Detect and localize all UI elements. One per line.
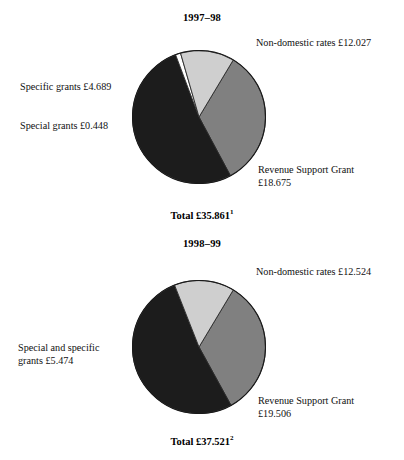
chart-2-total-text: Total £37.521 <box>170 436 230 447</box>
chart-1-label-specific-grants: Specific grants £4.689 <box>20 80 111 93</box>
pie-chart-1997-98: 1997–98 Non-domestic rates £12.027 Speci… <box>0 0 404 230</box>
chart-2-label-special-and-specific-grants: Special and specific grants £5.474 <box>18 341 99 367</box>
chart-1-total-footnote: 1 <box>230 208 234 216</box>
chart-1-label-revenue-support-grant: Revenue Support Grant £18.675 <box>258 163 354 189</box>
chart-1-label-special-grants: Special grants £0.448 <box>20 119 108 132</box>
pie-1-svg <box>132 50 266 184</box>
chart-1-total-text: Total £35.861 <box>170 210 230 221</box>
chart-2-total: Total £37.5212 <box>0 434 404 447</box>
chart-2-label-revenue-support-grant: Revenue Support Grant £19.506 <box>258 394 354 420</box>
chart-2-total-footnote: 2 <box>230 434 234 442</box>
pie-chart-1998-99: 1998–99 Non-domestic rates £12.524 Speci… <box>0 230 404 460</box>
chart-1-label-non-domestic-rates: Non-domestic rates £12.027 <box>256 36 371 49</box>
chart-2-title: 1998–99 <box>0 238 404 249</box>
pie-2-graphic <box>132 280 266 414</box>
chart-1-total: Total £35.8611 <box>0 208 404 221</box>
chart-1-title: 1997–98 <box>0 12 404 23</box>
pie-2-svg <box>132 280 266 414</box>
pie-1-graphic <box>132 50 266 184</box>
chart-2-label-non-domestic-rates: Non-domestic rates £12.524 <box>256 265 371 278</box>
